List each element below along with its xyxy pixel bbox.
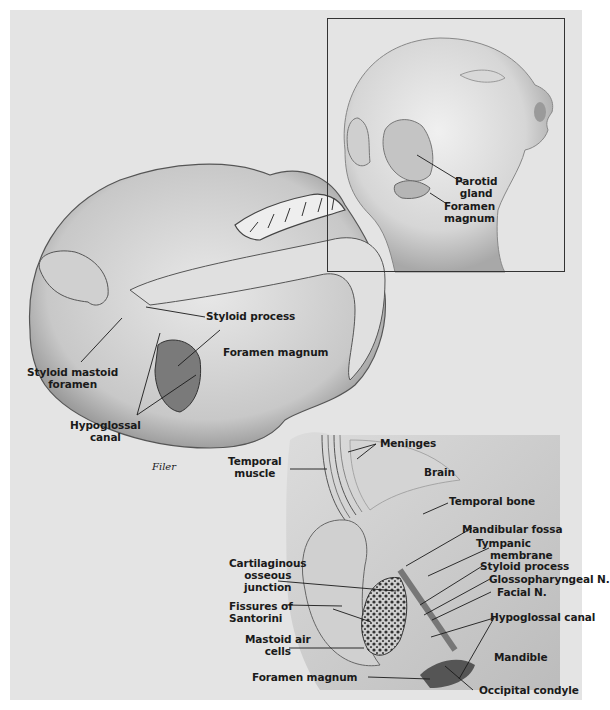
label-styloid-mastoid-foramen: Styloid mastoid foramen [27, 366, 118, 390]
label-temporal-bone: Temporal bone [449, 495, 535, 507]
label-inset-foramen-magnum: Foramen magnum [444, 200, 495, 224]
label-cartilaginous-osseous-junction: Cartilaginous osseous junction [229, 557, 307, 593]
label-tympanic-membrane: Tympanic membrane [476, 537, 553, 561]
label-hypoglossal-canal-skull: Hypoglossal canal [70, 419, 141, 443]
label-foramen-magnum-skull: Foramen magnum [223, 346, 328, 358]
label-foramen-magnum-section: Foramen magnum [252, 671, 357, 683]
label-line: magnum [444, 212, 495, 224]
label-line: Tympanic [476, 537, 553, 549]
artist-signature: Filer [151, 461, 177, 472]
label-brain: Brain [424, 466, 455, 478]
label-line: Mastoid air [245, 633, 311, 645]
label-line: Styloid mastoid [27, 366, 118, 378]
label-line: Parotid [455, 175, 497, 187]
label-temporal-muscle: Temporal muscle [228, 455, 282, 479]
label-mandibular-fossa: Mandibular fossa [462, 523, 562, 535]
label-styloid-process-skull: Styloid process [206, 310, 295, 322]
label-line: Santorini [229, 612, 293, 624]
label-mandible: Mandible [494, 651, 548, 663]
label-facial-nerve: Facial N. [497, 586, 547, 598]
label-line: Foramen [444, 200, 495, 212]
label-line: Hypoglossal [70, 419, 141, 431]
label-line: osseous [229, 569, 307, 581]
label-hypoglossal-canal-section: Hypoglossal canal [490, 611, 595, 623]
label-occipital-condyle: Occipital condyle [479, 684, 579, 696]
label-line: foramen [27, 378, 118, 390]
label-glossopharyngeal-nerve: Glossopharyngeal N. [489, 573, 610, 585]
label-line: junction [229, 581, 307, 593]
label-line: muscle [228, 467, 282, 479]
label-line: gland [455, 187, 497, 199]
label-parotid-gland: Parotid gland [455, 175, 497, 199]
label-mastoid-air-cells: Mastoid air cells [245, 633, 311, 657]
label-line: canal [70, 431, 141, 443]
label-line: cells [245, 645, 311, 657]
label-line: Fissures of [229, 600, 293, 612]
label-line: Cartilaginous [229, 557, 307, 569]
label-styloid-process-section: Styloid process [480, 560, 569, 572]
label-line: Temporal [228, 455, 282, 467]
label-fissures-of-santorini: Fissures of Santorini [229, 600, 293, 624]
label-meninges: Meninges [380, 437, 436, 449]
inset-frame [327, 18, 565, 272]
